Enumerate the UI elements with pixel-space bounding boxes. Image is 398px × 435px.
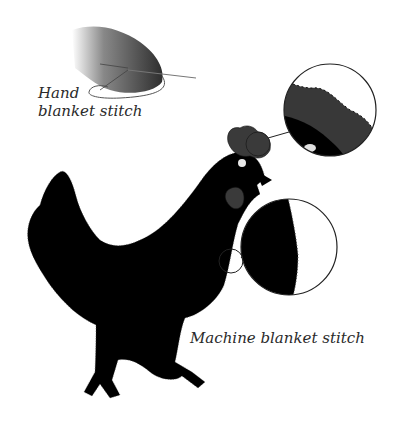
chicken-silhouette (28, 126, 272, 398)
label-line-1: Hand (38, 84, 142, 102)
comb-detail-callout (280, 64, 378, 170)
eye (238, 159, 246, 167)
label-line-2: blanket stitch (38, 102, 142, 120)
breast-detail-callout (240, 195, 337, 300)
illustration: Hand blanket stitch Machine blanket stit… (0, 0, 398, 435)
hand-blanket-stitch-label: Hand blanket stitch (38, 84, 142, 120)
machine-blanket-stitch-label: Machine blanket stitch (190, 329, 365, 347)
chicken-diagram (0, 0, 398, 435)
